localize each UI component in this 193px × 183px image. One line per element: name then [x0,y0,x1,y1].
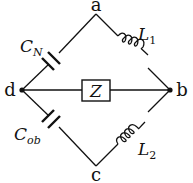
capacitor-cob-symbol: C [14,124,27,144]
capacitor-cob-label: Cob [14,124,41,147]
wire-cn-to-a [59,14,96,53]
inductor-l2-subscript: 2 [149,149,156,162]
node-c-label: c [91,164,101,183]
capacitor-cn-label: CN [20,36,43,59]
capacitor-cob-subscript: ob [27,134,41,147]
wire-d-to-cn [22,64,49,90]
impedance-z-label: Z [89,81,103,101]
node-b-dot [167,87,172,92]
wire-d-to-cob [22,90,49,116]
node-b-label: b [176,79,188,100]
wire-cob-to-c [59,127,96,166]
inductor-l2-symbol: L [137,139,149,159]
wire-l2-to-b [148,90,170,112]
node-d-label: d [4,79,16,100]
inductor-l2-label: L2 [137,139,156,162]
impedance-z: Z [82,80,110,101]
node-d-dot [19,87,24,92]
node-a-label: a [91,0,102,15]
wire-a-to-l1 [96,14,118,36]
capacitor-cn-subscript: N [32,46,43,59]
inductor-l1-label: L1 [137,24,156,47]
capacitor-cn-symbol: C [20,36,33,56]
wire-c-to-l2 [96,144,118,166]
wire-l1-to-b [148,68,170,90]
capacitor-cob-plate-2 [48,116,60,128]
inductor-l1-subscript: 1 [149,34,156,47]
capacitor-cn-plate-2 [48,52,60,64]
bridge-circuit-diagram: Z a d b c CN L1 Cob L2 [0,0,193,183]
inductor-l1-symbol: L [137,24,149,44]
